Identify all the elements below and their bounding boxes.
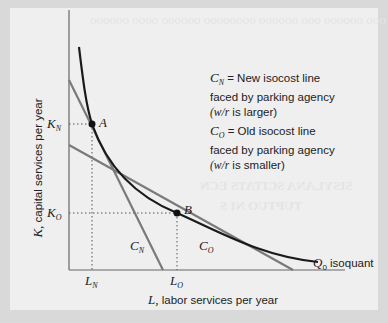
label-cn: CN — [130, 238, 144, 255]
point-a — [89, 121, 96, 128]
label-q0-isoquant: Q0 isoquant — [313, 255, 374, 272]
y-axis-title: K, capital services per year — [30, 88, 46, 248]
legend: CN = New isocost line faced by parking a… — [210, 70, 335, 176]
point-b-label: B — [184, 202, 192, 218]
tick-kn: KN — [47, 116, 61, 133]
tick-ln: LN — [85, 273, 98, 290]
tick-lo: LO — [170, 273, 183, 290]
point-a-label: A — [99, 115, 107, 131]
legend-item-cn: CN = New isocost line faced by parking a… — [210, 70, 335, 120]
isocost-line-cn — [69, 80, 163, 270]
label-co: CO — [199, 238, 213, 255]
tick-ko: KO — [47, 205, 61, 222]
x-axis-title: L, labor services per year — [148, 292, 278, 308]
point-b — [174, 210, 181, 217]
legend-item-co: CO = Old isocost line faced by parking a… — [210, 123, 335, 173]
